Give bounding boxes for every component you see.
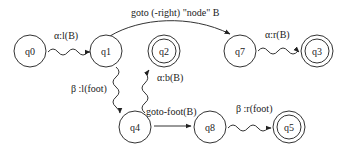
transition-label: goto (-right) "node" B [131,7,220,19]
wavy-arrow-icon [113,67,120,113]
state-q1: q1 [90,35,122,67]
transition-label: goto-foot(B) [146,106,197,118]
transition-label: α:r(B) [265,29,290,41]
state-label: q2 [159,46,169,57]
transition-q0-q1: α:l(B) [48,30,90,55]
state-q8: q8 [194,111,226,143]
transition-label: β :l(foot) [71,83,107,95]
state-label: q4 [130,122,140,133]
transition-q4-q8: goto-foot(B) [146,106,197,126]
state-label: q1 [101,46,111,57]
transition-q8-q5: β :r(foot) [228,103,272,131]
state-label: q5 [284,122,294,133]
state-q3: q3 [301,35,333,67]
wavy-arrow-icon [48,49,90,55]
state-diagram: α:l(B) goto (-right) "node" B α:r(B) β :… [0,0,344,153]
transition-label: β :r(foot) [236,103,272,115]
transition-q7-q3: α:r(B) [258,29,299,54]
state-q5: q5 [273,111,305,143]
wavy-arrow-icon [228,125,271,131]
transition-q1-q7: goto (-right) "node" B [110,7,230,36]
state-q2: q2 [148,35,180,67]
state-q4: q4 [119,111,151,143]
state-label: q0 [25,46,35,57]
transition-label: α:l(B) [54,30,78,42]
state-label: q8 [205,122,215,133]
state-q0: q0 [14,35,46,67]
transition-label: α:b(B) [157,72,183,84]
wavy-arrow-icon [258,48,299,54]
state-label: q7 [235,46,245,57]
state-label: q3 [312,46,322,57]
state-q7: q7 [224,35,256,67]
curved-arrow-icon [110,21,230,36]
transition-q1-q4: β :l(foot) [71,67,120,113]
